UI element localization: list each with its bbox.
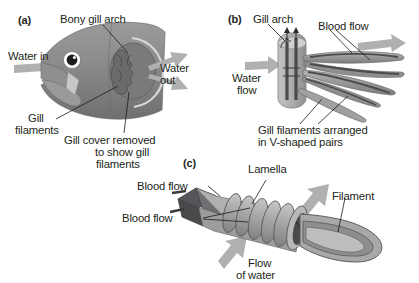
- fish-eye-pupil: [67, 55, 78, 66]
- filament-pair-3: [298, 88, 366, 122]
- label-v-pairs-line2: in V-shaped pairs: [258, 136, 343, 148]
- label-blood-flow-c-lower: Blood flow: [122, 212, 173, 224]
- label-gill-filaments-line2: filaments: [15, 124, 59, 136]
- label-filament-c: Filament: [332, 190, 374, 202]
- gill-filament-pairs: [298, 52, 404, 123]
- label-gill-filaments-line1: Gill: [28, 112, 44, 124]
- fish-eye-highlight: [73, 56, 76, 59]
- leader-gill-arch-b: [268, 24, 285, 41]
- label-v-pairs-line1: Gill filaments arranged: [258, 124, 368, 136]
- label-water-in: Water in: [8, 50, 48, 62]
- blood-vessel-arrow-head-1: [284, 27, 290, 33]
- label-gill-arch: Gill arch: [253, 13, 293, 25]
- label-water-flow-line2: flow: [237, 84, 257, 96]
- panel-a-letter: (a): [18, 14, 31, 26]
- label-gill-cover-line1: Gill cover removed: [64, 134, 155, 146]
- label-water-out-line1: Water: [160, 62, 189, 74]
- label-water-out-line2: out: [160, 74, 175, 86]
- panel-b-artwork: [245, 24, 406, 124]
- label-lamella: Lamella: [248, 163, 287, 175]
- water-flow-out-arrow-icon: [358, 34, 406, 52]
- label-blood-flow-b: Blood flow: [318, 20, 369, 32]
- panel-b-letter: (b): [228, 13, 242, 25]
- panel-c-letter: (c): [183, 157, 196, 169]
- figure-artwork: [0, 0, 419, 283]
- label-bony-gill-arch: Bony gill arch: [60, 13, 126, 25]
- label-blood-flow-c-upper: Blood flow: [137, 180, 188, 192]
- blood-vessel-arrow-head-2: [293, 27, 299, 33]
- label-flow-of-water-line2: of water: [236, 269, 275, 281]
- label-gill-cover-line2: to show gill: [95, 146, 149, 158]
- label-flow-of-water-line1: Flow: [248, 257, 271, 269]
- label-gill-cover-line3: filaments: [96, 158, 140, 170]
- flow-of-water-arrow-lower-icon: [218, 236, 247, 269]
- gill-structure-figure: (a) Bony gill arch Water in Water out Gi…: [0, 0, 419, 283]
- label-water-flow-line1: Water: [232, 72, 261, 84]
